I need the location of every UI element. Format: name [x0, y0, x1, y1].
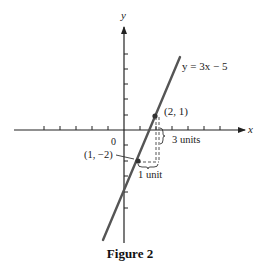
- slope-triangle: [138, 117, 159, 162]
- point-b-label: (1, −2): [84, 149, 113, 161]
- point-2-1: [152, 113, 157, 118]
- graph-line: [103, 57, 180, 240]
- point-1-neg2: [135, 158, 140, 163]
- x-axis-label: x: [247, 123, 253, 135]
- run-label: 1 unit: [138, 169, 162, 180]
- figure-caption: Figure 2: [107, 246, 153, 261]
- rise-label: 3 units: [172, 134, 200, 145]
- point-a-label: (2, 1): [164, 105, 188, 118]
- y-axis: y 0: [111, 9, 128, 243]
- x-axis: x: [14, 123, 253, 135]
- origin-label: 0: [111, 136, 116, 147]
- y-axis-label: y: [120, 9, 126, 21]
- line-equation-label: y = 3x − 5: [182, 60, 228, 72]
- point-leader-line: [116, 155, 134, 159]
- figure-canvas: x y 0 y = 3x − 5 (2, 1): [0, 0, 261, 264]
